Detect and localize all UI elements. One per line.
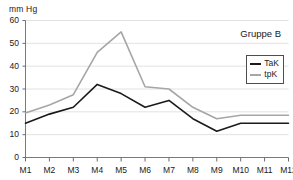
x-tick-label: M3 — [67, 165, 79, 175]
y-tick-label: 40 — [3, 61, 19, 71]
legend-swatch-icon — [250, 74, 261, 76]
chart-container: mm Hg 0102030405060 M1M2M3M4M5M6M7M8M9M1… — [0, 0, 293, 180]
x-tick-label: M5 — [115, 165, 127, 175]
series-line-tak — [26, 84, 289, 131]
y-tick-label: 60 — [3, 15, 19, 25]
legend-label: tpK — [264, 69, 277, 80]
y-tick-label: 0 — [3, 152, 19, 162]
x-tick-label: M11 — [257, 165, 273, 175]
x-tick-label: M8 — [187, 165, 199, 175]
legend-item: tpK — [250, 69, 279, 80]
legend-swatch-icon — [250, 63, 261, 65]
legend-item: TaK — [250, 58, 279, 69]
x-tick-label: M7 — [163, 165, 175, 175]
y-tick-label: 30 — [3, 84, 19, 94]
x-tick-label: M1 — [20, 165, 32, 175]
legend: TaKtpK — [246, 55, 284, 84]
group-annotation: Gruppe B — [240, 28, 281, 39]
y-tick-label: 10 — [3, 129, 19, 139]
plot-area — [0, 0, 293, 180]
x-tick-label: M2 — [44, 165, 56, 175]
x-tick-label: M4 — [91, 165, 103, 175]
x-axis-ticks — [26, 158, 289, 162]
y-tick-label: 50 — [3, 38, 19, 48]
x-tick-label: M6 — [139, 165, 151, 175]
legend-label: TaK — [264, 58, 279, 69]
x-tick-label: M10 — [232, 165, 249, 175]
x-tick-label: M12 — [280, 165, 293, 175]
y-tick-label: 20 — [3, 106, 19, 116]
x-tick-label: M9 — [211, 165, 223, 175]
